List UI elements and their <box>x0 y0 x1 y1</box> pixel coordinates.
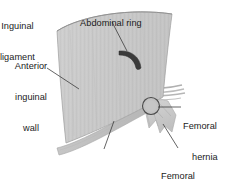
label-inguinal-ligament: Inguinal ligament <box>0 0 35 83</box>
label-femoral-sheath-line1: Femoral <box>148 171 208 181</box>
label-inguinal-ligament-line2: ligament <box>0 52 35 62</box>
label-abdominal-ring: Abdominal ring <box>56 8 156 39</box>
label-femoral-sheath: Femoral sheath <box>148 150 208 185</box>
label-anterior-inguinal-wall-line3: wall <box>4 123 58 133</box>
anatomical-figure: Abdominal ring Anterior inguinal wall Fe… <box>0 0 236 185</box>
femoral-hernia-ring <box>143 98 160 115</box>
label-femoral-hernia-line1: Femoral <box>183 121 235 131</box>
label-abdominal-ring-line1: Abdominal ring <box>80 18 142 28</box>
label-inguinal-ligament-line1: Inguinal <box>0 21 35 31</box>
label-anterior-inguinal-wall-line2: inguinal <box>4 92 58 102</box>
